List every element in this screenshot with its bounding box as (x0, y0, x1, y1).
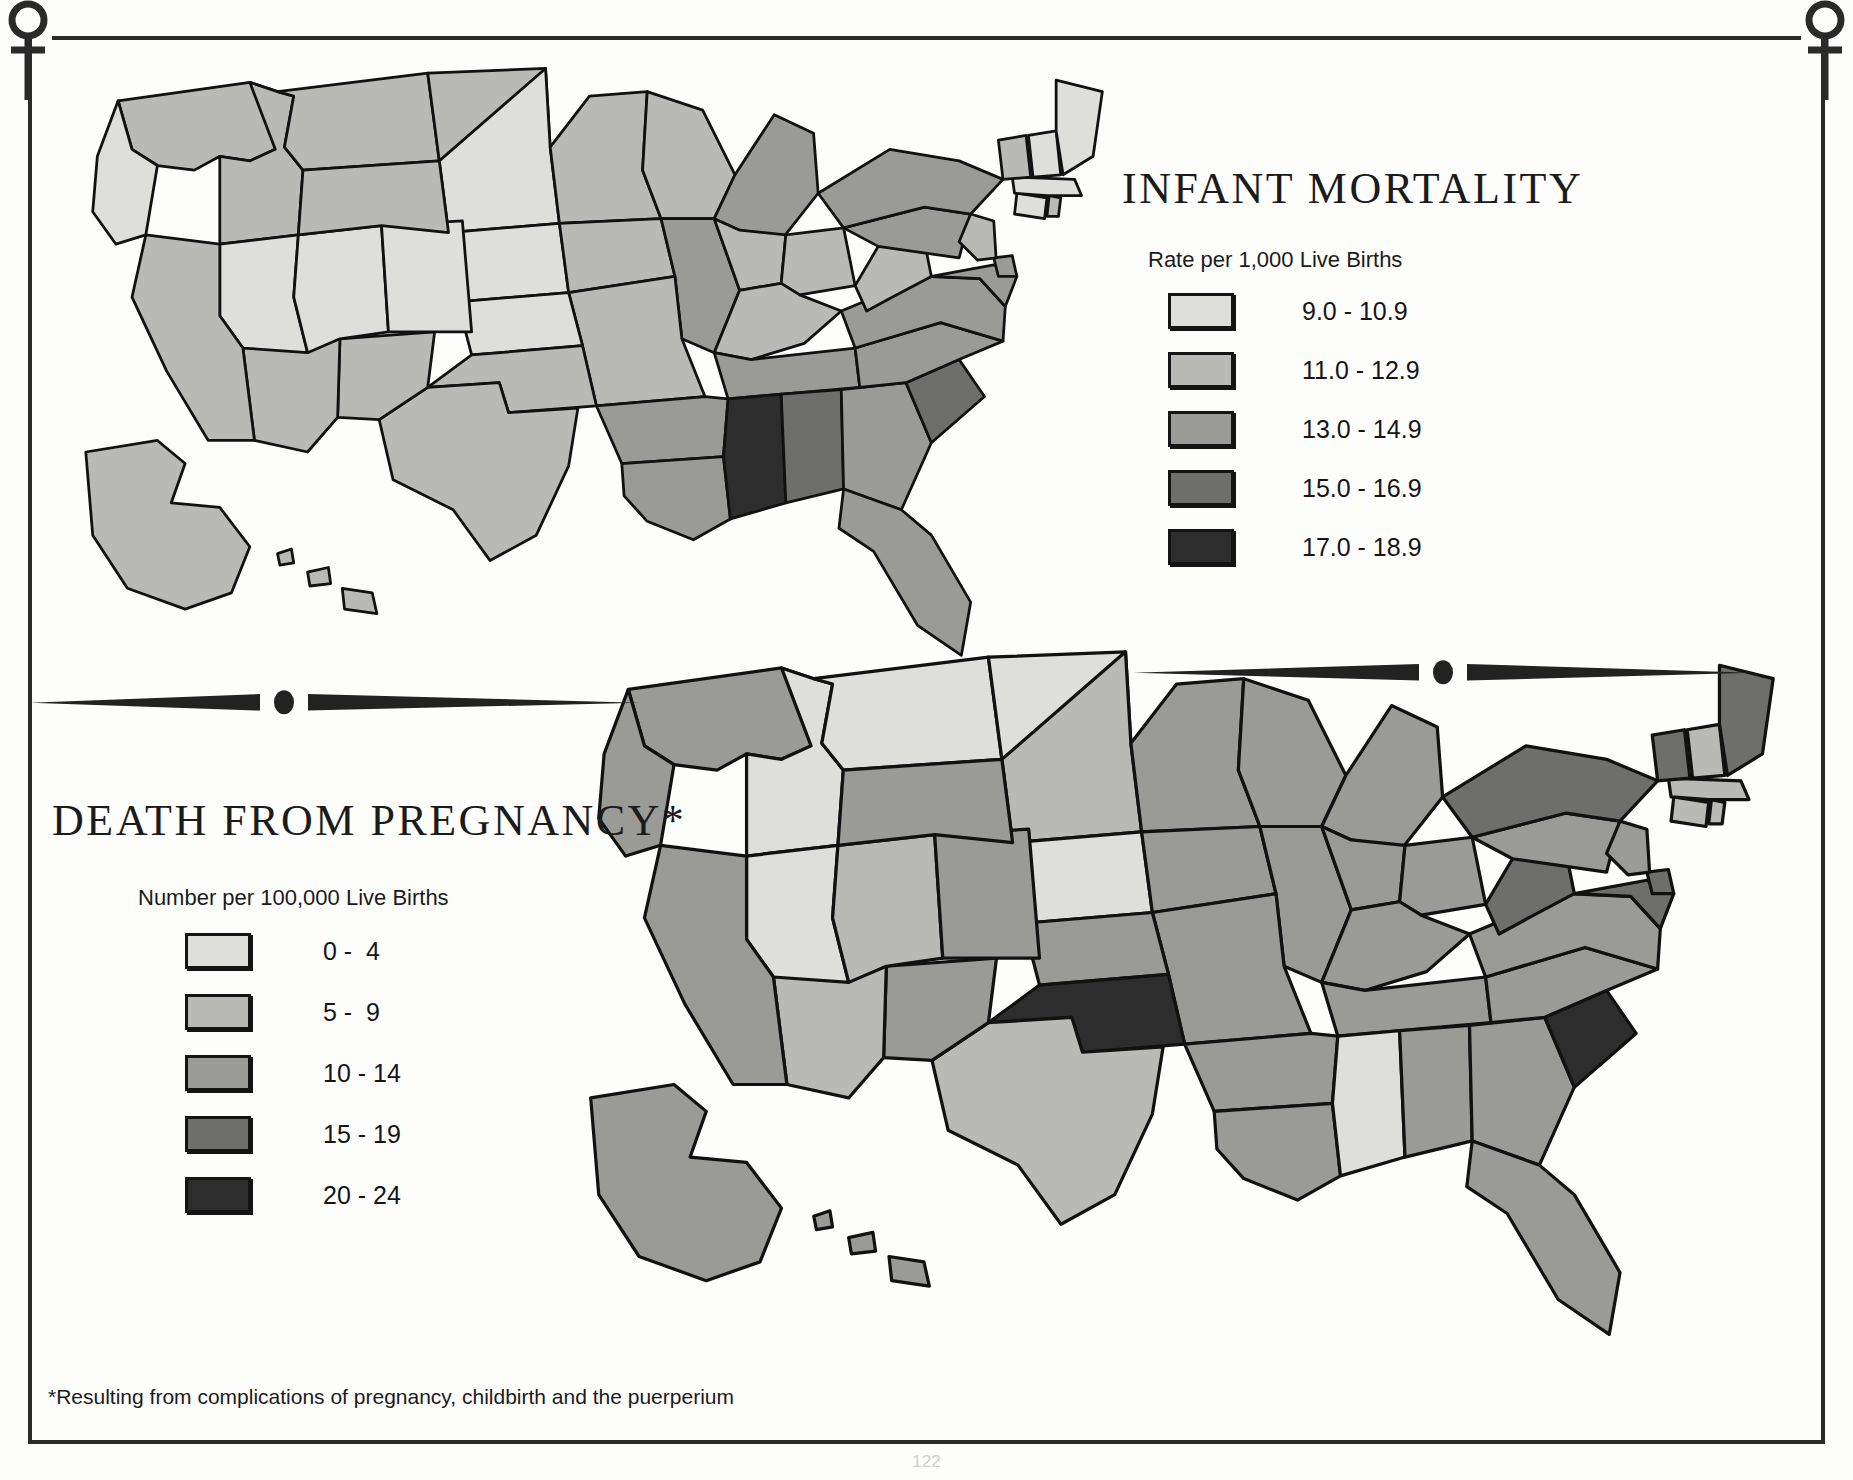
state-CO (935, 829, 1040, 958)
state-WI (1238, 679, 1346, 827)
state-FL (1467, 1141, 1620, 1335)
state-OH (1400, 837, 1486, 915)
state-VT (998, 135, 1030, 179)
state-AR (1185, 1033, 1338, 1111)
legend-item-label: 0 - 4 (323, 937, 380, 966)
state-AL (781, 390, 843, 503)
legend-subtitle-infant-mortality: Rate per 1,000 Live Births (1148, 247, 1402, 273)
legend-item: 20 - 24 (185, 1172, 401, 1218)
state-DE (1647, 870, 1674, 894)
state-MT (814, 657, 1002, 770)
atlas-page: INFANT MORTALITY Rate per 1,000 Live Bir… (0, 0, 1853, 1480)
legend-item: 9.0 - 10.9 (1168, 288, 1422, 334)
state-MA (1668, 778, 1749, 800)
legend-item: 5 - 9 (185, 989, 401, 1035)
state-RI (1709, 800, 1725, 824)
footnote: *Resulting from complications of pregnan… (48, 1385, 734, 1409)
legend-item-label: 15.0 - 16.9 (1302, 474, 1422, 503)
state-MS (1332, 1031, 1405, 1176)
page-number: 122 (0, 1452, 1853, 1472)
legend-swatch (185, 1055, 251, 1091)
state-HI (278, 549, 377, 614)
state-VT (1652, 730, 1690, 781)
legend-swatch (1168, 352, 1234, 388)
legend-subtitle-death-from-pregnancy: Number per 100,000 Live Births (138, 885, 449, 911)
state-ME (1056, 80, 1102, 175)
state-AK (591, 1085, 782, 1281)
legend-item-label: 13.0 - 14.9 (1302, 415, 1422, 444)
state-KS (458, 293, 583, 355)
legend-item-label: 20 - 24 (323, 1181, 401, 1210)
state-KS (1023, 913, 1168, 986)
state-TX (932, 1017, 1163, 1224)
ornamental-divider-rule (1133, 655, 1753, 689)
legend-item-label: 9.0 - 10.9 (1302, 297, 1408, 326)
state-WI (643, 92, 735, 219)
frame-rule-left (28, 36, 32, 1444)
state-AR (596, 397, 728, 464)
legend-swatch (185, 1177, 251, 1213)
state-AL (1400, 1025, 1473, 1157)
state-HI (814, 1211, 930, 1286)
state-LA (622, 457, 731, 540)
state-CT (1015, 193, 1047, 218)
legend-item-label: 11.0 - 12.9 (1302, 356, 1420, 385)
legend-item: 11.0 - 12.9 (1168, 347, 1422, 393)
legend-death-from-pregnancy: 0 - 4 5 - 9 10 - 14 15 - 19 20 - 24 (185, 928, 401, 1233)
legend-item: 0 - 4 (185, 928, 401, 974)
legend-item: 10 - 14 (185, 1050, 401, 1096)
legend-item-label: 5 - 9 (323, 998, 380, 1027)
legend-swatch (1168, 529, 1234, 565)
state-MT (278, 73, 440, 170)
state-WY (838, 759, 1013, 845)
page-title-infant-mortality: INFANT MORTALITY (1122, 163, 1583, 214)
ornamental-divider-rule (30, 685, 640, 719)
state-UT (294, 226, 389, 353)
state-MA (1012, 177, 1081, 195)
state-AK (86, 440, 250, 609)
state-RI (1047, 196, 1061, 217)
state-MS (723, 394, 785, 519)
state-DE (994, 256, 1017, 277)
state-UT (833, 835, 943, 983)
state-CO (382, 221, 472, 332)
legend-swatch (1168, 411, 1234, 447)
legend-swatch (185, 994, 251, 1030)
frame-rule-top (52, 36, 1801, 40)
state-shapes (86, 68, 1103, 655)
state-shapes (591, 652, 1774, 1335)
legend-item-label: 17.0 - 18.9 (1302, 533, 1422, 562)
legend-item-label: 10 - 14 (323, 1059, 401, 1088)
state-OH (781, 228, 855, 295)
legend-swatch (1168, 293, 1234, 329)
death-from-pregnancy-map (545, 590, 1835, 1450)
state-TX (379, 383, 578, 561)
venus-symbol-icon (1781, 0, 1853, 104)
state-AZ (243, 339, 340, 452)
page-title-death-from-pregnancy: DEATH FROM PREGNANCY* (52, 795, 686, 846)
legend-item: 15.0 - 16.9 (1168, 465, 1422, 511)
legend-swatch (1168, 470, 1234, 506)
state-CT (1671, 797, 1709, 827)
state-WY (298, 161, 448, 235)
legend-swatch (185, 1116, 251, 1152)
state-LA (1214, 1103, 1340, 1200)
legend-item: 17.0 - 18.9 (1168, 524, 1422, 570)
legend-item: 15 - 19 (185, 1111, 401, 1157)
legend-item: 13.0 - 14.9 (1168, 406, 1422, 452)
legend-item-label: 15 - 19 (323, 1120, 401, 1149)
state-AZ (773, 966, 886, 1098)
legend-swatch (185, 933, 251, 969)
legend-infant-mortality: 9.0 - 10.9 11.0 - 12.9 13.0 - 14.9 15.0 … (1168, 288, 1422, 583)
